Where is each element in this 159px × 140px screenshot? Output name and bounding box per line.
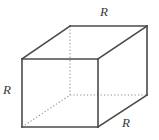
dimension-label-bottom-right: R: [122, 116, 130, 129]
dimension-label-top: R: [100, 5, 108, 18]
edge-top-left-diagonal: [22, 26, 70, 59]
cube-diagram: R R R: [0, 0, 159, 140]
solid-edges-group: [22, 26, 147, 127]
dimension-label-left: R: [3, 83, 11, 96]
cube-wireframe-svg: [0, 0, 159, 140]
hidden-edge-bottom-left-diagonal: [22, 95, 70, 127]
hidden-edges-group: [22, 26, 147, 127]
edge-top-right-diagonal: [98, 26, 147, 59]
